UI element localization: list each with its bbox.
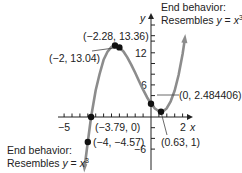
end-behavior-bottom-left: End behavior: Resembles y = x3 [7, 144, 89, 169]
polynomial-graph: −5 2 x 12 6 −6 y [0, 0, 242, 173]
end-behavior-top-right: End behavior: Resembles y = x3 [161, 1, 242, 26]
svg-text:End behavior:: End behavior: [7, 144, 72, 156]
label-local-min: (0.63, 1) [161, 136, 200, 148]
point-neg4 [85, 139, 91, 145]
label-neg4: (−4, −4.57) [93, 136, 144, 148]
label-y-intercept: (0, 2.484406) [179, 89, 241, 101]
arrow-top-right-icon [181, 34, 187, 43]
x-axis-ticks [64, 114, 183, 118]
point-y-intercept [148, 101, 154, 107]
point-root [88, 114, 94, 120]
svg-text:End behavior:: End behavior: [161, 1, 226, 13]
point-local-min [158, 109, 164, 115]
x-tick-label-neg5: −5 [58, 121, 70, 133]
x-tick-label-2: 2 [180, 121, 186, 133]
label-neg2: (−2, 13.04) [49, 52, 100, 64]
x-axis-label: x [189, 121, 196, 133]
label-local-max: (−2.28, 13.36) [83, 30, 149, 42]
y-axis-ticks [151, 25, 155, 149]
point-neg2 [116, 44, 122, 50]
label-root: (−3.79, 0) [95, 121, 140, 133]
svg-text:Resembles y = x3: Resembles y = x3 [161, 14, 242, 26]
svg-text:Resembles y = x3: Resembles y = x3 [7, 157, 89, 169]
y-axis-label: y [139, 12, 146, 24]
y-tick-label-12: 12 [135, 47, 147, 59]
